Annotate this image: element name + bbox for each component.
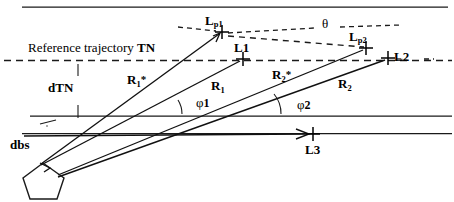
label-dtn: dTN: [48, 80, 73, 96]
reference-trajectory-tn: TN: [137, 40, 155, 55]
label-phi1: φ1: [196, 95, 210, 111]
label-r1-base: R: [211, 78, 220, 93]
label-lp2-base: L: [349, 29, 358, 44]
dbs-dot: [46, 125, 47, 126]
label-phi1-base: φ: [196, 95, 204, 110]
dashed-theta-right: [340, 25, 400, 27]
marker-l2: [381, 51, 395, 65]
label-phi1-sub: 1: [204, 96, 210, 110]
label-lp1: Lp1: [205, 13, 223, 29]
label-r1-star-sub: 1: [136, 79, 140, 89]
label-r1-star: R1*: [127, 72, 146, 88]
label-phi2: φ2: [297, 97, 311, 113]
marker-l3: [306, 127, 320, 141]
label-l1: L1: [234, 40, 249, 56]
label-r2-base: R: [338, 76, 347, 91]
label-r1-star-mark: *: [141, 73, 147, 85]
label-lp2-sub: p2: [358, 35, 367, 45]
label-lp1-sub: p1: [214, 19, 223, 29]
label-r2-star-sub: 2: [281, 74, 285, 84]
label-lp1-base: L: [205, 13, 214, 28]
label-theta: θ: [322, 16, 328, 32]
angle-arc-phi1: [178, 100, 182, 114]
label-r1: R1: [211, 78, 225, 94]
sensor-pentagon: [23, 163, 64, 199]
label-phi2-sub: 2: [305, 98, 311, 112]
reference-trajectory-prefix: Reference trajectory: [28, 40, 137, 55]
reference-trajectory-label: Reference trajectory TN: [28, 40, 155, 56]
label-r2: R2: [338, 76, 352, 92]
figure-container: Reference trajectory TN Lp1 L1 θ Lp2 L2 …: [0, 0, 454, 202]
ray-l3-boresight: [24, 134, 308, 136]
label-r2-star-mark: *: [286, 68, 292, 80]
dbs-direction-tick: [40, 120, 56, 124]
geometry-diagram: [0, 0, 454, 202]
label-l3: L3: [305, 142, 320, 158]
label-r2-star-base: R: [272, 67, 281, 82]
label-dbs: dbs: [10, 137, 30, 153]
label-r1-star-base: R: [127, 72, 136, 87]
label-lp2: Lp2: [349, 29, 367, 45]
label-r1-sub: 1: [220, 85, 224, 95]
label-l2: L2: [394, 49, 409, 65]
label-r2-sub: 2: [347, 83, 351, 93]
dashed-theta-upper: [228, 28, 314, 33]
label-phi2-base: φ: [297, 97, 305, 112]
label-r2-star: R2*: [272, 67, 291, 83]
